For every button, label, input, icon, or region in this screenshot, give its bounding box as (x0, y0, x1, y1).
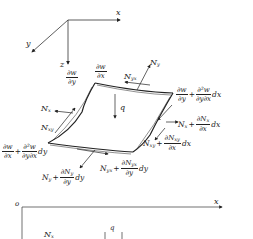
bottom-axis-x-label: x (214, 198, 219, 206)
right-Nxy-expr: Nxy + ∂Nxy∂x dx (143, 134, 191, 152)
load-q: q (120, 104, 125, 112)
force-Nx: Nx (41, 105, 51, 114)
right-slope-expr: ∂w∂y + ∂²w∂y∂x dx (176, 86, 221, 103)
front-slope-expr: ∂w∂x + ∂²w∂y∂x dy (2, 143, 47, 160)
axis-y-label: y (26, 40, 31, 48)
right-Nx-expr: Nx + ∂Nx∂x dx (178, 115, 220, 133)
origin-label: o (15, 200, 19, 208)
axis-z-label: z (60, 61, 64, 69)
bottom-load-q: q (110, 224, 114, 232)
force-Ny: Ny (150, 59, 160, 68)
top-axes (32, 20, 120, 64)
slope-dw-dx: ∂w∂x (95, 63, 107, 80)
slope-dw-dy: ∂w∂y (66, 69, 78, 86)
front-Ny-expr: Ny + ∂Ny∂y dy (42, 168, 84, 186)
axis-x-label: x (116, 9, 121, 17)
force-Nyx: Nyx (124, 73, 137, 82)
bottom-force-Nx: Nx (44, 231, 54, 239)
force-Nxy: Nxy (41, 124, 54, 133)
front-Nyx-expr: Nyx + ∂Nyx∂y dy (100, 159, 148, 177)
